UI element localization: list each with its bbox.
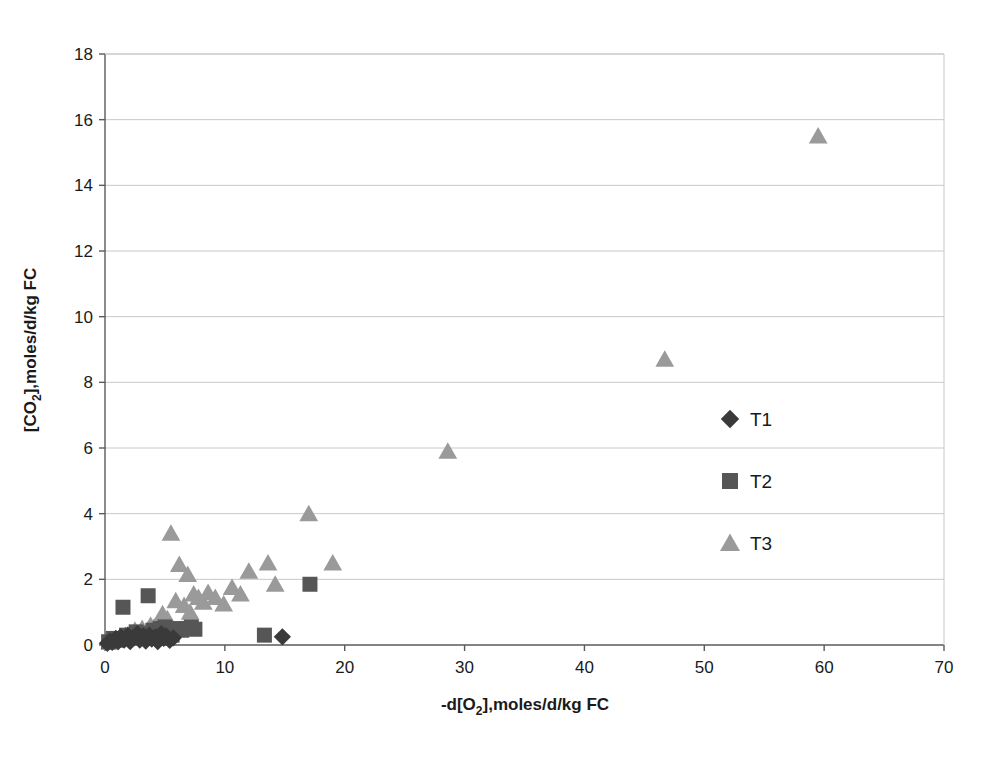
- legend-marker-square-icon: [722, 473, 738, 489]
- x-tick-label: 0: [100, 658, 109, 677]
- y-tick-label: 4: [84, 505, 93, 524]
- data-point-t2: [141, 588, 156, 603]
- x-tick-label: 40: [575, 658, 594, 677]
- legend-label: T2: [750, 471, 772, 492]
- chart-page: 010203040506070 024681012141618 T1T2T3 -…: [0, 0, 996, 757]
- data-point-t2: [302, 577, 317, 592]
- y-tick-label: 2: [84, 570, 93, 589]
- x-tick-label: 50: [695, 658, 714, 677]
- y-tick-label: 16: [74, 111, 93, 130]
- y-tick-label: 6: [84, 439, 93, 458]
- y-tick-label: 18: [74, 45, 93, 64]
- x-tick-label: 10: [215, 658, 234, 677]
- legend-label: T1: [750, 409, 772, 430]
- data-point-t2: [257, 628, 272, 643]
- y-tick-label: 10: [74, 308, 93, 327]
- x-tick-label: 70: [935, 658, 954, 677]
- data-point-t2: [115, 600, 130, 615]
- x-tick-label: 60: [815, 658, 834, 677]
- x-tick-label: 20: [335, 658, 354, 677]
- legend-label: T3: [750, 533, 772, 554]
- y-tick-label: 12: [74, 242, 93, 261]
- y-tick-label: 14: [74, 176, 93, 195]
- y-tick-label: 8: [84, 373, 93, 392]
- scatter-chart: 010203040506070 024681012141618 T1T2T3 -…: [0, 0, 996, 757]
- y-tick-label: 0: [84, 636, 93, 655]
- x-tick-label: 30: [455, 658, 474, 677]
- data-point-t2: [187, 622, 202, 637]
